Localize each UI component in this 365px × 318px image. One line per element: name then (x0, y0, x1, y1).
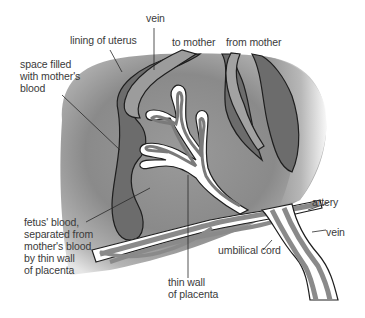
label-umbilical-cord: umbilical cord (218, 244, 281, 256)
label-artery: artery (312, 196, 338, 208)
label-thin-wall: thin wall of placenta (168, 276, 218, 300)
label-vein-right: vein (326, 226, 345, 238)
label-lining-of-uterus: lining of uterus (70, 34, 137, 46)
label-space-filled: space filled with mother's blood (20, 58, 80, 94)
label-to-mother: to mother (172, 36, 215, 48)
label-vein-top: vein (146, 12, 165, 24)
label-fetus-blood: fetus' blood, separated from mother's bl… (24, 216, 93, 276)
label-from-mother: from mother (226, 36, 282, 48)
